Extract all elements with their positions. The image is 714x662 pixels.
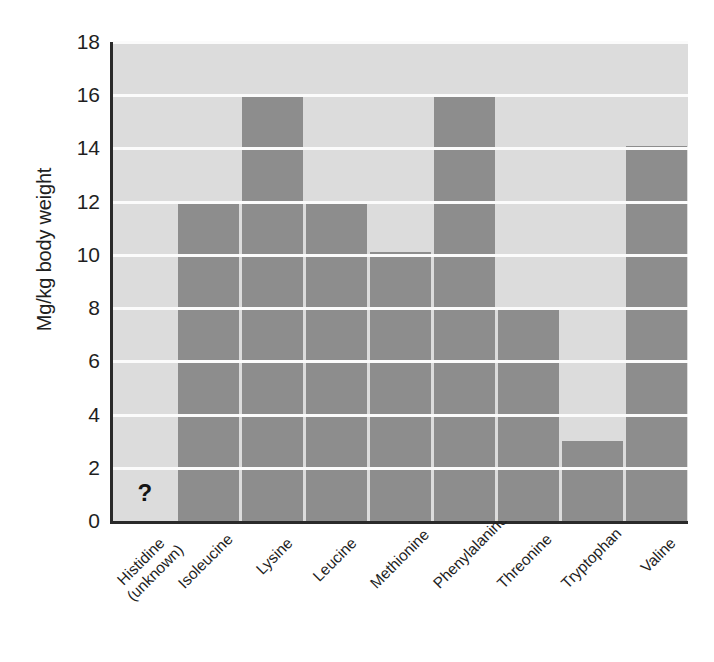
x-tick-label: Valine (622, 534, 680, 592)
x-tick-label-line1: Tryptophan (558, 524, 625, 591)
x-tick-label: Methionine (366, 534, 424, 592)
y-tick-label: 16 (58, 83, 100, 107)
x-tick-label-line1: Threonine (494, 530, 555, 591)
y-tick-label: 10 (58, 243, 100, 267)
bar[interactable] (434, 95, 495, 521)
y-tick-label: 2 (58, 456, 100, 480)
bar[interactable] (626, 146, 687, 521)
x-tick-label: Threonine (494, 534, 552, 592)
y-tick-label: 12 (58, 190, 100, 214)
x-tick-label-line1: Valine (637, 534, 679, 576)
x-tick-label: Leucine (302, 534, 360, 592)
y-tick-label: 8 (58, 296, 100, 320)
x-axis-tick-labels: Histidine(unknown)IsoleucineLysineLeucin… (110, 530, 685, 662)
y-tick-label: 0 (58, 509, 100, 533)
bar[interactable] (306, 202, 367, 521)
bar[interactable] (178, 202, 239, 521)
x-tick-label-line1: Isoleucine (174, 530, 235, 591)
bar-slot (369, 42, 433, 521)
x-tick-label: Phenylalanine (430, 534, 488, 592)
bar-slot (241, 42, 305, 521)
bar-slot (432, 42, 496, 521)
bars-layer: ? (113, 42, 688, 521)
bar-slot: ? (113, 42, 177, 521)
x-tick-label: Tryptophan (558, 534, 616, 592)
x-tick-label: Isoleucine (174, 534, 232, 592)
y-tick-label: 14 (58, 136, 100, 160)
bar[interactable] (498, 308, 559, 521)
bar-slot (305, 42, 369, 521)
unknown-value-marker: ? (138, 479, 153, 507)
bar[interactable] (242, 95, 303, 521)
x-tick-label: Lysine (238, 534, 296, 592)
bar-slot (624, 42, 688, 521)
y-tick-label: 4 (58, 403, 100, 427)
bar-slot (560, 42, 624, 521)
x-tick-label: Histidine(unknown) (110, 534, 181, 605)
bar[interactable] (370, 252, 431, 521)
bar-chart-figure: Mg/kg body weight 024681012141618 ? Hist… (0, 0, 714, 662)
y-axis-title: Mg/kg body weight (33, 110, 56, 390)
plot-area: ? (110, 42, 688, 524)
x-tick-label-line1: Lysine (252, 534, 295, 577)
x-tick-label-line1: Methionine (366, 526, 432, 592)
x-tick-label-line1: Leucine (309, 534, 359, 584)
bar-slot (177, 42, 241, 521)
bar[interactable] (562, 441, 623, 521)
bar-slot (496, 42, 560, 521)
y-tick-label: 18 (58, 30, 100, 54)
y-tick-label: 6 (58, 349, 100, 373)
